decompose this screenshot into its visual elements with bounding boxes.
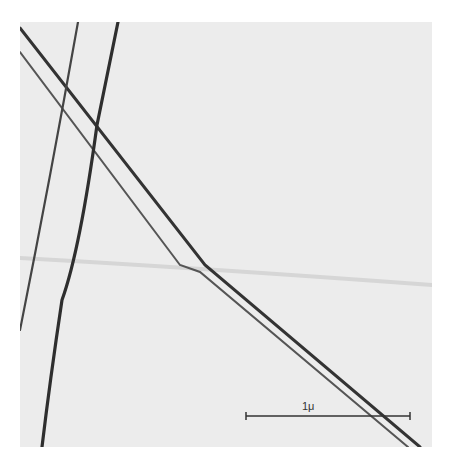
- filament-lines: [0, 0, 453, 466]
- vertical-filament-thick: [42, 22, 118, 447]
- scale-bar-label: 1μ: [302, 400, 314, 412]
- vertical-filament-thin: [20, 22, 78, 330]
